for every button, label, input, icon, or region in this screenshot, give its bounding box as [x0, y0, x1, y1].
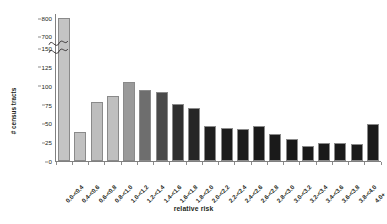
bar	[367, 124, 379, 161]
y-axis-tick-label: 125	[41, 63, 52, 70]
y-axis-tick-label: 800	[41, 15, 52, 22]
bar	[334, 143, 346, 161]
x-axis-tick-label: 4.0+	[373, 199, 378, 204]
bar-slot	[121, 14, 137, 161]
x-axis-tick-label: 2.8-<3.0	[275, 199, 280, 204]
bar-slot	[170, 14, 186, 161]
bar	[91, 102, 103, 161]
x-axis-tick-label: 1.0-<1.2	[129, 199, 134, 204]
bar-slot	[300, 14, 316, 161]
bar-slot	[267, 14, 283, 161]
bar-series	[56, 14, 381, 161]
bar	[156, 92, 168, 161]
bar	[221, 128, 233, 161]
bar	[253, 126, 265, 161]
bar	[318, 143, 330, 161]
bar-chart: # census tracts 8007001501251007550250 0…	[0, 0, 387, 224]
y-axis-tick-label: 700	[41, 33, 52, 40]
bar-slot	[105, 14, 121, 161]
y-axis-title-label: # census tracts	[10, 88, 17, 135]
bar-slot	[56, 14, 72, 161]
x-axis-tick-label: 0.6-<0.8	[97, 199, 102, 204]
bar	[188, 108, 200, 161]
bar	[269, 134, 281, 161]
x-axis-tick-label: 3.8-<4.0	[357, 199, 362, 204]
bar-slot	[332, 14, 348, 161]
bar	[107, 96, 119, 161]
y-axis-tick-label: 25	[45, 139, 52, 146]
bar	[204, 126, 216, 161]
x-axis-tick-label: 2.4-<2.6	[243, 199, 248, 204]
bar-slot	[235, 14, 251, 161]
bar	[139, 90, 151, 161]
x-axis-tick-label: 3.0-<3.2	[292, 199, 297, 204]
x-axis-tick-label: 0.4-<0.6	[80, 199, 85, 204]
bar	[123, 82, 135, 161]
bar-slot	[316, 14, 332, 161]
y-axis-tick-label: 150	[41, 45, 52, 52]
bar-slot	[137, 14, 153, 161]
x-axis-tick-label: 1.4-<1.6	[162, 199, 167, 204]
bar-slot	[186, 14, 202, 161]
x-axis-title: relative risk	[0, 205, 387, 212]
plot-area: 8007001501251007550250	[55, 14, 381, 162]
bar	[58, 18, 70, 161]
x-axis-labels: 0.0-<0.40.4-<0.60.6-<0.80.8-<1.01.0-<1.2…	[56, 164, 381, 204]
bar	[74, 132, 86, 161]
bar-slot	[365, 14, 381, 161]
y-axis-tick-label: 0	[48, 158, 52, 165]
bar	[237, 129, 249, 161]
y-axis-title: # census tracts	[8, 56, 18, 166]
x-axis-tick-label: 2.0-<2.2	[210, 199, 215, 204]
x-axis-tick-label: 2.2-<2.4	[227, 199, 232, 204]
x-axis-tick-label: 1.8-<2.0	[194, 199, 199, 204]
bar-slot	[219, 14, 235, 161]
bar-slot	[202, 14, 218, 161]
x-axis-tick-label: 3.4-<3.6	[324, 199, 329, 204]
bar-slot	[284, 14, 300, 161]
bar-slot	[154, 14, 170, 161]
bar	[351, 144, 363, 161]
bar-slot	[349, 14, 365, 161]
x-axis-tick-label: 1.2-<1.4	[145, 199, 150, 204]
x-axis-tick-label: 3.2-<3.4	[308, 199, 313, 204]
bar-slot	[89, 14, 105, 161]
y-axis-tick-label: 50	[45, 120, 52, 127]
bar	[302, 146, 314, 161]
bar-slot	[72, 14, 88, 161]
x-axis-tick-label: 0.8-<1.0	[113, 199, 118, 204]
bar	[286, 139, 298, 161]
bar-slot	[251, 14, 267, 161]
bar	[172, 104, 184, 161]
x-axis-tick-label: 1.6-<1.8	[178, 199, 183, 204]
x-axis-tick-label: 3.6-<3.8	[340, 199, 345, 204]
x-axis-tick-label: 2.6-<2.8	[259, 199, 264, 204]
y-axis-tick-label: 100	[41, 82, 52, 89]
y-axis-tick-label: 75	[45, 101, 52, 108]
x-axis-tick-label: 0.0-<0.4	[64, 199, 69, 204]
